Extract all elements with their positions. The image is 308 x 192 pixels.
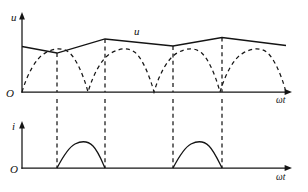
voltage-origin-label: O [6, 87, 14, 99]
current-origin-label: O [10, 163, 18, 175]
current-y-axis-arrow [19, 121, 25, 128]
current-y-axis-label: i [12, 120, 15, 132]
rectified-sine-dashed-curve [22, 49, 286, 92]
voltage-curve-label: u [134, 25, 140, 37]
waveform-figure: u ωt O u i ωt O [0, 0, 308, 192]
waveform-svg: u ωt O u i ωt O [0, 0, 308, 192]
voltage-y-axis-arrow [19, 12, 25, 19]
current-pulse-1 [57, 142, 105, 168]
voltage-y-axis-label: u [11, 11, 17, 23]
current-x-axis-arrow [285, 165, 292, 171]
capacitor-ripple-solid-curve [22, 38, 286, 54]
voltage-panel: u ωt O u [6, 11, 292, 105]
current-pulse-2 [173, 142, 222, 168]
voltage-x-axis-label: ωt [276, 95, 286, 105]
current-x-axis-label: ωt [276, 172, 286, 182]
current-panel: i ωt O [10, 99, 292, 182]
